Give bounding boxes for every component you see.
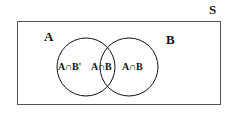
set-a-label: A bbox=[44, 30, 53, 43]
venn-diagram-canvas bbox=[0, 0, 236, 114]
region-label-a-intersect-b-right: A∩B bbox=[122, 62, 142, 72]
venn-diagram-figure: S A B A∩B' A∩B A∩B bbox=[0, 0, 236, 114]
universal-set-label: S bbox=[209, 3, 216, 16]
region-label-a-intersect-b-complement: A∩B' bbox=[58, 62, 81, 72]
region-label-a-intersect-b: A∩B bbox=[91, 62, 111, 72]
set-b-label: B bbox=[166, 33, 175, 46]
